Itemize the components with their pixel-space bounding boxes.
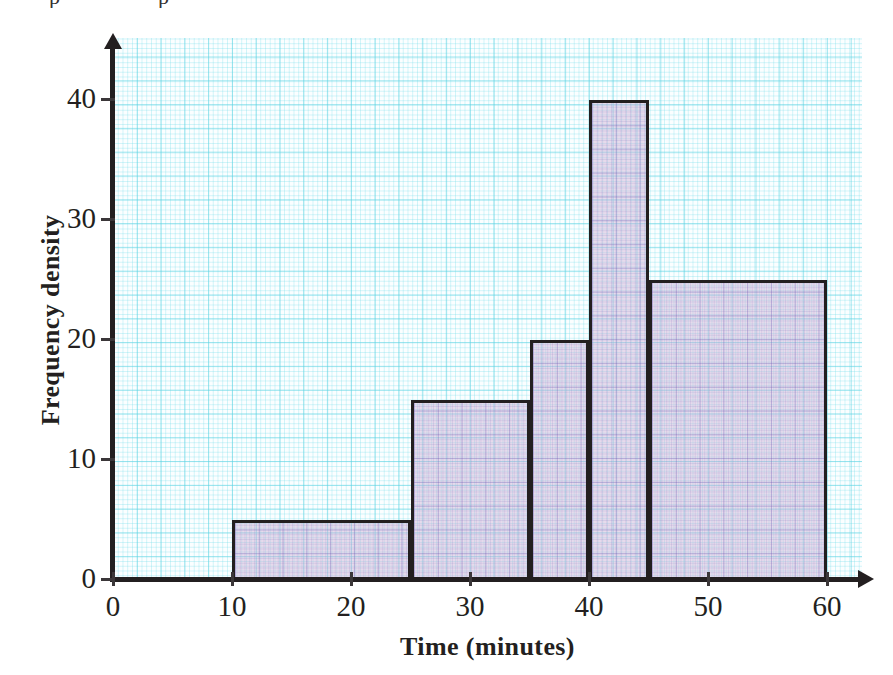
y-tick-label-40: 40 [26,82,96,115]
x-tick-label-30: 30 [440,590,500,623]
x-tick-30 [469,572,472,586]
x-tick-label-10: 10 [202,590,262,623]
x-tick-60 [826,572,829,586]
y-tick-20 [101,338,115,341]
x-axis-arrow-icon [858,570,874,588]
y-axis-arrow-icon [104,33,122,49]
histogram-bar-35-40 [530,340,590,580]
x-tick-label-20: 20 [321,590,381,623]
x-tick-label-40: 40 [559,590,619,623]
y-tick-label-0: 0 [26,562,96,595]
histogram-bar-40-45 [589,100,649,580]
x-tick-40 [588,572,591,586]
x-tick-20 [350,572,353,586]
y-tick-0 [101,578,115,581]
x-tick-label-50: 50 [678,590,738,623]
x-tick-label-60: 60 [797,590,857,623]
histogram-bar-25-35 [411,400,530,580]
y-axis-title: Frequency density [36,165,66,475]
cropped-text-remnants: p p [0,0,893,8]
histogram-figure: p p 0 10 20 30 40 50 60 0 10 [0,0,893,675]
y-tick-10 [101,458,115,461]
x-tick-50 [707,572,710,586]
y-tick-40 [101,98,115,101]
x-axis-line [113,577,861,582]
y-axis-line [110,48,115,582]
plot-area [113,38,862,580]
crop-remnant-glyph: p [158,0,169,8]
y-tick-30 [101,218,115,221]
histogram-bar-45-60 [649,280,828,580]
histogram-bar-10-25 [232,520,411,580]
x-tick-10 [231,572,234,586]
x-axis-title: Time (minutes) [113,632,862,662]
